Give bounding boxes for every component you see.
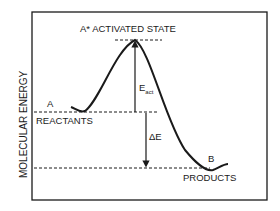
activated-state-label: A* ACTIVATED STATE — [80, 23, 176, 34]
delta-e-label: ΔE — [149, 131, 162, 142]
diagram-canvas: MOLECULAR ENERGY A* ACTIVATED STATE A RE… — [0, 0, 280, 211]
reactant-letter: A — [47, 98, 54, 109]
products-label: PRODUCTS — [183, 172, 236, 183]
reactants-label-text: REACTANTS — [36, 115, 93, 126]
y-axis-label: MOLECULAR ENERGY — [18, 70, 29, 178]
energy-diagram: MOLECULAR ENERGY A* ACTIVATED STATE A RE… — [0, 0, 280, 211]
eact-label: Eact — [139, 82, 154, 95]
product-letter: B — [208, 153, 214, 164]
energy-curve — [71, 40, 228, 170]
